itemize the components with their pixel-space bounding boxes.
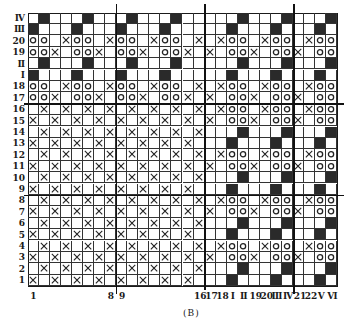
empty-cell	[249, 263, 260, 274]
row-label: 10	[0, 173, 25, 184]
circle-cell	[282, 35, 293, 46]
empty-cell	[39, 229, 50, 240]
cross-cell	[293, 115, 304, 126]
cross-cell	[138, 92, 149, 103]
circle-cell	[282, 81, 293, 92]
cross-icon	[105, 218, 115, 228]
empty-cell	[183, 263, 194, 274]
circle-cell	[116, 92, 127, 103]
empty-cell	[83, 115, 94, 126]
circle-icon	[127, 35, 137, 45]
circle-cell	[282, 252, 293, 263]
cross-icon	[304, 149, 314, 159]
circle-cell	[238, 206, 249, 217]
row-label: Ⅱ	[0, 59, 25, 70]
circle-cell	[127, 81, 138, 92]
circle-cell	[282, 47, 293, 58]
cross-cell	[171, 127, 182, 138]
circle-icon	[127, 92, 137, 102]
empty-cell	[28, 127, 39, 138]
cross-icon	[72, 229, 82, 239]
cross-cell	[260, 149, 271, 160]
circle-icon	[282, 115, 292, 125]
cross-icon	[39, 104, 49, 114]
cross-cell	[183, 252, 194, 263]
cross-icon	[94, 275, 104, 285]
cross-cell	[138, 161, 149, 172]
empty-cell	[61, 92, 72, 103]
circle-cell	[227, 47, 238, 58]
empty-cell	[105, 138, 116, 149]
cross-icon	[194, 263, 204, 273]
cross-icon	[183, 229, 193, 239]
circle-icon	[238, 115, 248, 125]
circle-icon	[326, 149, 336, 159]
cross-cell	[149, 263, 160, 274]
cross-cell	[61, 35, 72, 46]
cross-cell	[216, 195, 227, 206]
cross-cell	[50, 115, 61, 126]
empty-cell	[249, 172, 260, 183]
filled-cell	[127, 58, 138, 69]
circle-cell	[39, 47, 50, 58]
empty-cell	[94, 149, 105, 160]
filled-cell	[282, 58, 293, 69]
empty-cell	[105, 24, 116, 35]
cross-icon	[138, 229, 148, 239]
cross-icon	[138, 161, 148, 171]
circle-icon	[227, 195, 237, 205]
empty-cell	[304, 24, 315, 35]
circle-cell	[238, 47, 249, 58]
empty-cell	[94, 195, 105, 206]
empty-cell	[149, 252, 160, 263]
circle-cell	[282, 206, 293, 217]
section-divider-vertical	[116, 4, 118, 294]
column-label: 8	[106, 291, 117, 301]
cross-cell	[149, 195, 160, 206]
cross-cell	[205, 206, 216, 217]
empty-cell	[216, 24, 227, 35]
empty-cell	[183, 149, 194, 160]
cross-icon	[249, 92, 259, 102]
cross-cell	[293, 161, 304, 172]
cross-cell	[171, 149, 182, 160]
filled-cell	[227, 184, 238, 195]
circle-cell	[160, 35, 171, 46]
empty-cell	[94, 35, 105, 46]
cross-cell	[28, 161, 39, 172]
filled-cell	[238, 263, 249, 274]
filled-cell	[326, 13, 337, 24]
empty-cell	[50, 24, 61, 35]
cross-icon	[72, 161, 82, 171]
cross-cell	[61, 218, 72, 229]
empty-cell	[149, 206, 160, 217]
filled-cell	[238, 172, 249, 183]
empty-cell	[205, 263, 216, 274]
empty-cell	[116, 13, 127, 24]
circle-cell	[227, 241, 238, 252]
empty-cell	[271, 127, 282, 138]
empty-cell	[216, 172, 227, 183]
cross-icon	[160, 252, 170, 262]
empty-cell	[94, 81, 105, 92]
circle-cell	[326, 161, 337, 172]
cross-icon	[72, 206, 82, 216]
empty-cell	[127, 24, 138, 35]
filled-cell	[326, 263, 337, 274]
empty-cell	[205, 172, 216, 183]
cross-icon	[183, 275, 193, 285]
cross-cell	[94, 184, 105, 195]
circle-icon	[160, 47, 170, 57]
empty-cell	[105, 229, 116, 240]
cross-icon	[171, 241, 181, 251]
cross-cell	[194, 149, 205, 160]
cross-cell	[149, 104, 160, 115]
cross-icon	[304, 195, 314, 205]
cross-cell	[61, 81, 72, 92]
empty-cell	[127, 115, 138, 126]
empty-cell	[304, 92, 315, 103]
row-label: Ⅲ	[0, 24, 25, 35]
empty-cell	[293, 13, 304, 24]
empty-cell	[83, 70, 94, 81]
empty-cell	[271, 218, 282, 229]
